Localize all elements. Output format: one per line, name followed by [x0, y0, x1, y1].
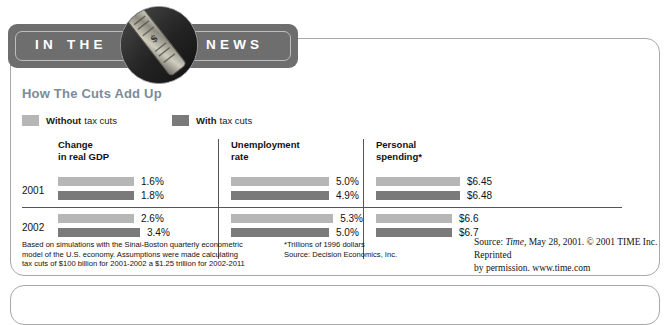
banner-word-the: THE — [67, 37, 107, 52]
column-header-unemployment: Unemployment rate — [218, 139, 363, 171]
footnotes: Based on simulations with the Sinai-Bost… — [22, 240, 662, 269]
bar-value: $6.48 — [467, 190, 492, 201]
footnote-units: *Trillions of 1996 dollars — [284, 240, 434, 250]
footnote-line: model of the U.S. economy. Assumptions w… — [22, 250, 284, 260]
bar-light — [58, 214, 134, 223]
bargroup-gdp-2002: 2.6% 3.4% — [58, 213, 218, 238]
bar-pair-light: 5.3% — [231, 213, 363, 224]
header-spacer — [22, 139, 58, 171]
bar-pair-light: $6.45 — [376, 176, 513, 187]
chart-block: How The Cuts Add Up Without tax cuts Wit… — [22, 86, 642, 244]
legend-label-strong: Without — [46, 115, 81, 126]
bar-value: 1.6% — [141, 176, 164, 187]
bar-pair-dark: 1.8% — [58, 190, 218, 201]
legend-swatch-light — [22, 115, 39, 126]
footnote-line: tax cuts of $100 billion for 2001-2002 a… — [22, 259, 284, 269]
bar-pair-light: 5.0% — [231, 176, 363, 187]
bar-light — [231, 177, 329, 186]
banner-word-in: IN — [35, 37, 57, 52]
column-header-gdp: Change in real GDP — [58, 139, 218, 171]
source-line2: by permission. www.time.com — [474, 262, 672, 275]
table-row: 2001 1.6% 1.8% — [22, 171, 622, 207]
source-attribution: Source: Time, May 28, 2001. © 2001 TIME … — [474, 236, 672, 275]
bargroup-gdp-2001: 1.6% 1.8% — [58, 176, 218, 201]
chart-title: How The Cuts Add Up — [22, 86, 642, 101]
rolled-dollar-bill-photo-icon: $ — [120, 6, 198, 84]
bar-dark — [58, 228, 140, 237]
bar-value: $6.45 — [467, 176, 492, 187]
legend-label-strong: With — [196, 115, 217, 126]
banner-word-news: NEWS — [206, 37, 263, 52]
legend-swatch-dark — [172, 115, 189, 126]
bar-light — [376, 214, 452, 223]
bar-pair-light: 2.6% — [58, 213, 218, 224]
bar-dark — [231, 228, 329, 237]
legend-item-without: Without tax cuts — [22, 115, 117, 126]
bar-dark — [231, 191, 329, 200]
footnote-line: Based on simulations with the Sinai-Bost… — [22, 240, 284, 250]
bar-pair-dark: 5.0% — [231, 227, 363, 238]
bar-value: $6.6 — [459, 213, 478, 224]
source-prefix: Source: — [474, 237, 505, 247]
bar-light — [231, 214, 333, 223]
bargroup-spending-2001: $6.45 $6.48 — [363, 176, 513, 201]
bargroup-unemployment-2001: 5.0% 4.9% — [218, 176, 363, 201]
bar-light — [58, 177, 134, 186]
legend-label-rest: tax cuts — [220, 115, 253, 126]
bar-value: 4.9% — [336, 190, 359, 201]
bargroup-unemployment-2002: 5.3% 5.0% — [218, 213, 363, 238]
bar-pair-dark: 4.9% — [231, 190, 363, 201]
footnote-source: Source: Decision Economics, Inc. — [284, 250, 434, 260]
footnote-methodology: Based on simulations with the Sinai-Bost… — [22, 240, 284, 269]
column-header-line2: rate — [231, 151, 248, 162]
source-publication: Time, — [505, 237, 526, 247]
legend-label-rest: tax cuts — [84, 115, 117, 126]
bar-value: 3.4% — [147, 227, 170, 238]
bar-dark — [376, 191, 460, 200]
chart-grid: Change in real GDP Unemployment rate Per… — [22, 139, 622, 244]
column-header-line1: Personal — [376, 139, 416, 150]
bar-light — [376, 177, 460, 186]
bar-value: 5.0% — [336, 176, 359, 187]
row-year-label: 2002 — [22, 213, 58, 233]
bar-dark — [58, 191, 134, 200]
row-year-label: 2001 — [22, 176, 58, 196]
column-header-spending: Personal spending* — [363, 139, 513, 171]
bar-value: 1.8% — [141, 190, 164, 201]
bar-value: 5.0% — [336, 227, 359, 238]
column-header-row: Change in real GDP Unemployment rate Per… — [22, 139, 622, 171]
legend-item-with: With tax cuts — [172, 115, 252, 126]
footnote-units-source: *Trillions of 1996 dollars Source: Decis… — [284, 240, 434, 269]
bar-pair-light: 1.6% — [58, 176, 218, 187]
bar-pair-light: $6.6 — [376, 213, 513, 224]
bar-value: 2.6% — [141, 213, 164, 224]
next-content-frame — [10, 285, 660, 325]
bar-value: 5.3% — [340, 213, 363, 224]
column-header-line2: in real GDP — [58, 151, 109, 162]
bar-pair-dark: 3.4% — [58, 227, 218, 238]
bar-dark — [376, 228, 452, 237]
column-header-line1: Unemployment — [231, 139, 300, 150]
bargroup-spending-2002: $6.6 $6.7 — [363, 213, 513, 238]
column-header-line2: spending* — [376, 151, 422, 162]
chart-legend: Without tax cuts With tax cuts — [22, 115, 642, 126]
bar-pair-dark: $6.48 — [376, 190, 513, 201]
column-header-line1: Change — [58, 139, 93, 150]
